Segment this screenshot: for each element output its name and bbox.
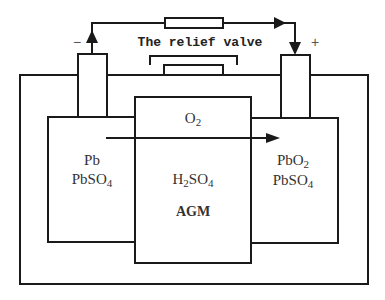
positive-sign: + bbox=[311, 34, 319, 50]
load-resistor bbox=[165, 18, 223, 28]
positive-terminal-post bbox=[281, 55, 310, 119]
negative-sign: − bbox=[73, 34, 81, 50]
agm-label: AGM bbox=[176, 204, 210, 219]
valve-cap bbox=[150, 56, 237, 65]
negative-terminal-post bbox=[78, 54, 107, 118]
valve-label: The relief valve bbox=[138, 35, 263, 50]
positive-plate-line2: PbSO4 bbox=[273, 172, 314, 190]
right-arrow-icon bbox=[274, 17, 286, 29]
negative-plate-line2: PbSO4 bbox=[72, 171, 113, 189]
relief-valve bbox=[164, 65, 223, 75]
electrolyte-label: H2SO4 bbox=[172, 171, 214, 189]
down-arrow-icon bbox=[289, 42, 301, 55]
up-arrow-icon bbox=[86, 30, 98, 43]
battery-diagram: The relief valve − + O2 Pb PbSO4 PbO2 Pb… bbox=[0, 0, 385, 300]
negative-plate-line1: Pb bbox=[84, 152, 100, 168]
